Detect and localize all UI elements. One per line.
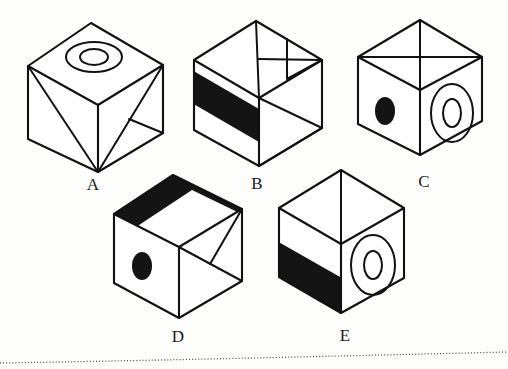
cube-C-label: C xyxy=(418,172,429,191)
cube-B-top-cross-line xyxy=(258,59,322,60)
cube-D: D xyxy=(110,172,250,346)
cube-D-label: D xyxy=(172,327,184,346)
cube-C: C xyxy=(358,20,482,191)
cube-E-label: E xyxy=(340,326,350,345)
cube-A: A xyxy=(28,23,163,194)
cube-B-label: B xyxy=(251,174,262,193)
footer-dotted-rule xyxy=(0,352,508,363)
cube-B: B xyxy=(190,21,322,193)
cube-D-left-solid-ellipse xyxy=(132,252,152,280)
cube-E: E xyxy=(275,170,404,345)
cube-A-label: A xyxy=(87,175,100,194)
cube-figure-root: A B xyxy=(0,0,508,369)
cube-C-left-solid-ellipse xyxy=(375,97,395,125)
cube-figure-svg: A B xyxy=(0,0,508,369)
